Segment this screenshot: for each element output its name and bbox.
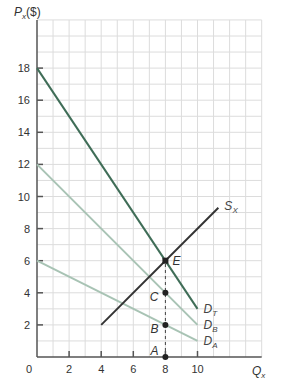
y-tick-label: 12 (18, 158, 30, 170)
y-axis-title: Px($) (14, 5, 41, 21)
y-tick-label: 14 (18, 126, 30, 138)
point-marker-a (162, 354, 168, 360)
x-tick-label: 4 (98, 363, 104, 375)
curve-label-d-b: DB (204, 318, 219, 334)
point-marker-b (162, 322, 168, 328)
curve-label-d-a: DA (204, 334, 218, 350)
point-label-e: E (172, 254, 181, 268)
curve-label-d-t: DT (204, 302, 219, 318)
x-tick-label: 6 (130, 363, 136, 375)
point-label-b: B (150, 322, 158, 336)
x-axis-title: Qx (252, 364, 266, 380)
curve-labels: DTDBDASX (204, 199, 239, 350)
y-tick-label: 4 (24, 287, 30, 299)
y-tick-label: 6 (24, 255, 30, 267)
y-tick-label: 18 (18, 62, 30, 74)
x-tick-label: 8 (162, 363, 168, 375)
x-tick-label: 0 (26, 363, 32, 375)
point-label-a: A (149, 344, 158, 358)
y-tick-label: 16 (18, 94, 30, 106)
point-marker-c (162, 290, 168, 296)
point-marker-e (162, 258, 168, 264)
series-lines (37, 68, 218, 341)
ticks: 024681024681012141618 (18, 62, 204, 375)
curve-label-s-x: SX (224, 199, 238, 215)
y-tick-label: 10 (18, 191, 30, 203)
chart: 024681024681012141618 ABCE DTDBDASX Px($… (0, 0, 281, 392)
x-tick-label: 2 (66, 363, 72, 375)
grid (37, 20, 262, 357)
x-tick-label: 10 (191, 363, 203, 375)
y-tick-label: 2 (24, 319, 30, 331)
series-line-s-x (101, 208, 218, 325)
y-tick-label: 8 (24, 223, 30, 235)
point-label-c: C (150, 290, 159, 304)
